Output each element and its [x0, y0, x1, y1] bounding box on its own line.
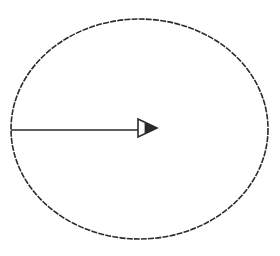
arrowhead-icon — [138, 119, 157, 137]
diagram-canvas — [0, 0, 280, 256]
